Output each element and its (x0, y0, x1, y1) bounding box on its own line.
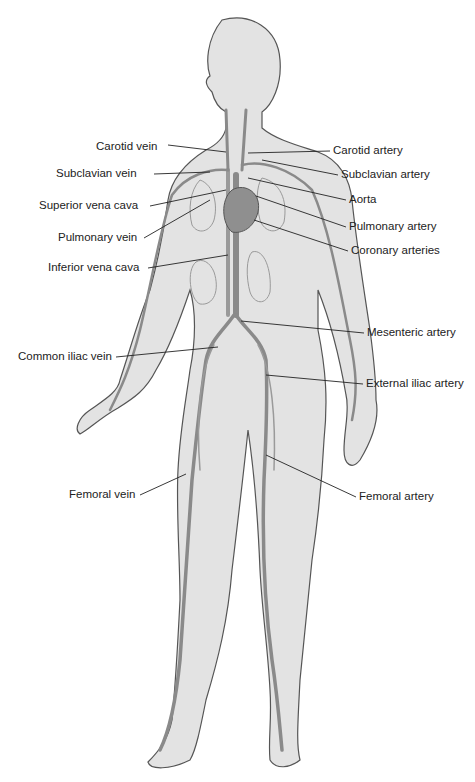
body-illustration (0, 0, 475, 782)
label-mesenteric-artery: Mesenteric artery (367, 327, 456, 339)
label-carotid-vein: Carotid vein (96, 141, 157, 153)
circulatory-system-diagram: Carotid vein Subclavian vein Superior ve… (0, 0, 475, 782)
label-femoral-artery: Femoral artery (359, 491, 434, 503)
label-subclavian-vein: Subclavian vein (56, 168, 137, 180)
label-carotid-artery: Carotid artery (333, 145, 403, 157)
label-pulmonary-vein: Pulmonary vein (58, 232, 137, 244)
label-coronary-arteries: Coronary arteries (351, 245, 440, 257)
label-pulmonary-artery: Pulmonary artery (349, 221, 437, 233)
label-external-iliac-artery: External iliac artery (366, 378, 464, 390)
label-femoral-vein: Femoral vein (69, 489, 135, 501)
label-aorta: Aorta (349, 194, 377, 206)
label-subclavian-artery: Subclavian artery (341, 169, 430, 181)
label-inferior-vena-cava: Inferior vena cava (48, 262, 139, 274)
label-superior-vena-cava: Superior vena cava (39, 200, 138, 212)
label-common-iliac-vein: Common iliac vein (18, 351, 112, 363)
